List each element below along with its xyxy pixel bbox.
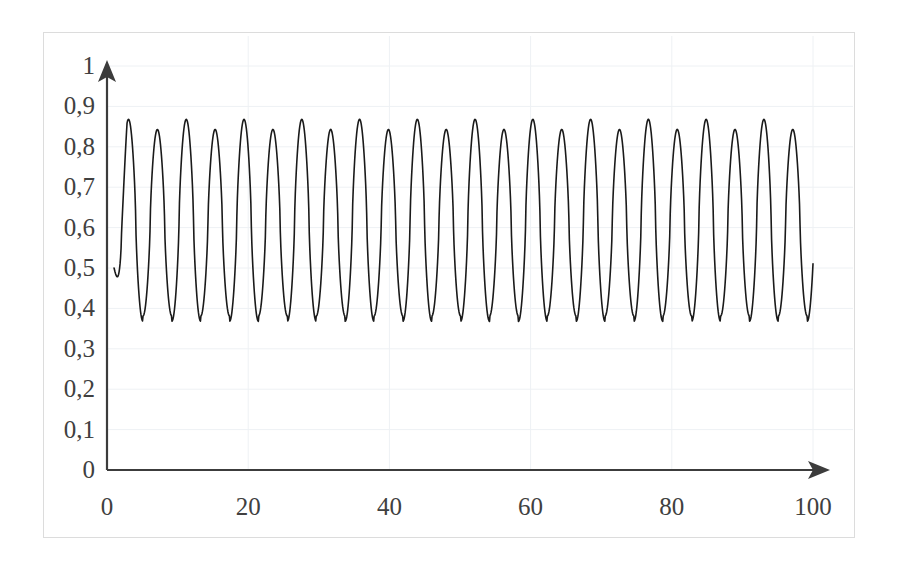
x-tick-label: 0 — [67, 494, 147, 519]
plot-area — [0, 0, 898, 567]
y-tick-label: 1 — [33, 53, 95, 78]
y-tick-label: 0,9 — [33, 93, 95, 118]
y-tick-label: 0,8 — [33, 134, 95, 159]
chart-figure: 10,90,80,70,60,50,40,30,20,10 0204060801… — [0, 0, 898, 567]
x-tick-label: 100 — [773, 494, 853, 519]
grid-lines — [107, 36, 853, 470]
series-line-oscillation — [114, 119, 813, 321]
x-tick-label: 20 — [208, 494, 288, 519]
y-tick-label: 0,6 — [33, 215, 95, 240]
x-tick-label: 60 — [491, 494, 571, 519]
y-tick-label: 0,2 — [33, 376, 95, 401]
y-tick-label: 0 — [33, 457, 95, 482]
y-tick-label: 0,7 — [33, 174, 95, 199]
y-tick-label: 0,5 — [33, 255, 95, 280]
y-tick-label: 0,3 — [33, 336, 95, 361]
y-tick-label: 0,1 — [33, 417, 95, 442]
x-tick-label: 40 — [349, 494, 429, 519]
y-tick-label: 0,4 — [33, 295, 95, 320]
axis-lines — [98, 60, 830, 479]
x-tick-label: 80 — [632, 494, 712, 519]
